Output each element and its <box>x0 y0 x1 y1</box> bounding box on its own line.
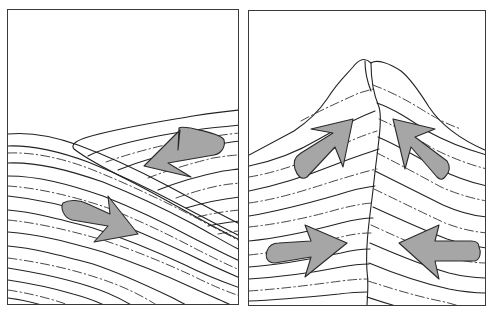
arrow-down-right-icon <box>62 196 138 242</box>
panel-collision-mountain: Continental collision forming a mountain… <box>248 10 486 306</box>
arrow-right-icon <box>266 225 347 277</box>
arrow-left-icon <box>399 225 480 279</box>
mountain-diagram <box>249 11 486 306</box>
overthrust-diagram <box>8 10 239 305</box>
panel-overthrust: Oceanic-continental style overthrust: on… <box>7 9 239 305</box>
arrow-up-left-icon <box>393 119 449 179</box>
right-flank-strata <box>367 85 486 306</box>
